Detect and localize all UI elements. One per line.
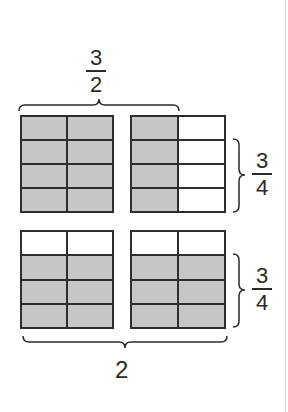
grid-bottom-left <box>20 230 114 329</box>
shaded-cell <box>68 281 112 303</box>
unshaded-cell <box>179 189 224 211</box>
right-bottom-fraction-label: 3 4 <box>252 266 272 313</box>
shaded-cell <box>179 256 224 278</box>
bottom-brace <box>22 335 228 349</box>
shaded-cell <box>68 165 112 187</box>
shaded-cell <box>132 165 177 187</box>
right-top-fraction-denominator: 4 <box>256 178 268 198</box>
shaded-cell <box>22 305 66 327</box>
shaded-cell <box>22 281 66 303</box>
shaded-cell <box>179 305 224 327</box>
shaded-cell <box>132 141 177 163</box>
shaded-cell <box>132 256 177 278</box>
unshaded-cell <box>132 232 177 254</box>
shaded-cell <box>22 141 66 163</box>
right-top-fraction-label: 3 4 <box>252 151 272 198</box>
unshaded-cell <box>179 232 224 254</box>
shaded-cell <box>22 165 66 187</box>
shaded-cell <box>68 141 112 163</box>
shaded-cell <box>22 189 66 211</box>
top-brace <box>18 98 180 112</box>
grid-top-left <box>20 115 114 213</box>
shaded-cell <box>68 305 112 327</box>
right-top-brace <box>232 138 246 213</box>
page-edge-line <box>285 0 286 412</box>
unshaded-cell <box>179 165 224 187</box>
top-fraction-numerator: 3 <box>90 48 102 68</box>
shaded-cell <box>22 256 66 278</box>
shaded-cell <box>132 117 177 139</box>
shaded-cell <box>132 281 177 303</box>
shaded-cell <box>179 281 224 303</box>
top-fraction-label: 3 2 <box>86 48 106 95</box>
shaded-cell <box>68 117 112 139</box>
grid-bottom-right <box>130 230 226 329</box>
unshaded-cell <box>179 141 224 163</box>
shaded-cell <box>68 189 112 211</box>
right-bottom-brace <box>232 253 246 328</box>
shaded-cell <box>132 189 177 211</box>
top-fraction-denominator: 2 <box>90 75 102 95</box>
bottom-label: 2 <box>115 358 128 382</box>
unshaded-cell <box>68 232 112 254</box>
right-top-fraction-numerator: 3 <box>256 151 268 171</box>
shaded-cell <box>132 305 177 327</box>
right-bottom-fraction-numerator: 3 <box>256 266 268 286</box>
shaded-cell <box>68 256 112 278</box>
right-bottom-fraction-denominator: 4 <box>256 293 268 313</box>
shaded-cell <box>22 117 66 139</box>
grid-top-right <box>130 115 226 213</box>
unshaded-cell <box>22 232 66 254</box>
unshaded-cell <box>179 117 224 139</box>
